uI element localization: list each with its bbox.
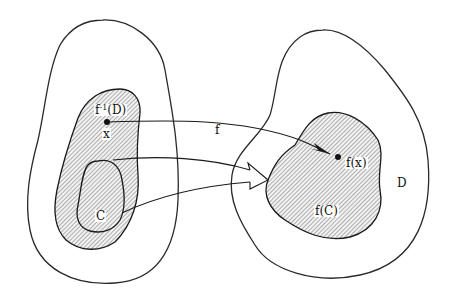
diagram-svg [0, 0, 452, 303]
point-x [104, 119, 110, 125]
subset-c-label: C [95, 210, 106, 222]
open-arrowhead-icon [248, 163, 268, 189]
point-fx [335, 154, 341, 160]
image-set-fc [266, 112, 381, 238]
preimage-label-arg: (D) [107, 103, 126, 117]
image-fc-label: f(C) [314, 205, 339, 217]
diagram-canvas: f-1(D) x C f f(x) D f(C) [0, 0, 452, 303]
point-x-label: x [102, 128, 111, 140]
point-fx-label: f(x) [345, 157, 368, 169]
preimage-label-sup: -1 [99, 103, 107, 112]
preimage-label: f-1(D) [94, 104, 127, 116]
set-d-label: D [396, 177, 408, 189]
map-f-label: f [214, 124, 220, 136]
